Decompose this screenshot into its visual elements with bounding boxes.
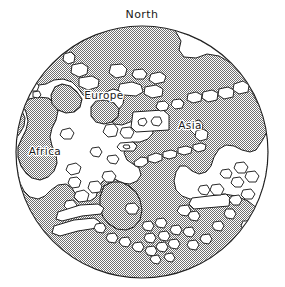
label-north: North (126, 8, 159, 21)
island (132, 69, 147, 79)
island-chain-link (156, 101, 169, 111)
island-chain-link (171, 99, 184, 109)
island-chain-link (163, 150, 177, 159)
island (234, 162, 248, 173)
hemisphere-map-figure: North Europe Asia Africa (0, 0, 285, 287)
island-chain-link (193, 143, 206, 152)
island-central-rectangle (131, 110, 169, 132)
island (245, 171, 259, 182)
island (120, 127, 134, 138)
island (210, 184, 224, 195)
label-asia: Asia (178, 119, 202, 131)
island (149, 72, 166, 84)
label-europe: Europe (84, 89, 123, 101)
label-africa: Africa (29, 145, 61, 157)
island-chain-link (251, 59, 265, 72)
island (102, 171, 116, 182)
island-chain-link (187, 92, 202, 103)
island-chain-link (178, 146, 192, 155)
island (60, 128, 74, 139)
island-inner-dot-right (151, 117, 162, 126)
island (88, 181, 102, 193)
map-canvas: North Europe Asia Africa (0, 0, 285, 287)
island (125, 203, 139, 214)
